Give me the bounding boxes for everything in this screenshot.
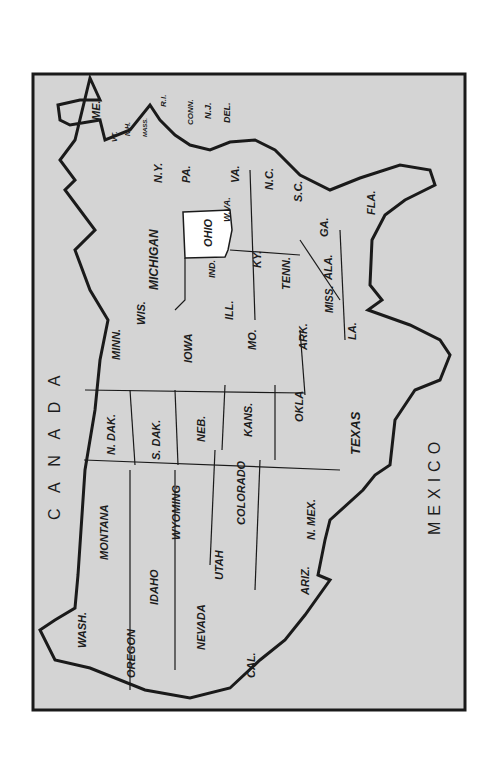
state-ky: KY. bbox=[251, 251, 263, 268]
state-miss: MISS. bbox=[324, 286, 335, 313]
state-me: ME. bbox=[90, 100, 102, 120]
state-iowa: IOWA bbox=[182, 334, 194, 363]
state-kans: KANS. bbox=[242, 403, 254, 437]
state-oregon: OREGON bbox=[125, 628, 137, 678]
state-nj: N.J. bbox=[203, 102, 213, 119]
state-utah: UTAH bbox=[213, 549, 225, 580]
state-pa: PA. bbox=[180, 165, 192, 183]
state-ny: N.Y. bbox=[152, 163, 164, 183]
region-canada: C A N A D A bbox=[46, 370, 63, 521]
state-wyoming: WYOMING bbox=[170, 485, 182, 540]
state-ala: ALA. bbox=[322, 254, 334, 281]
state-mass: MASS. bbox=[142, 118, 148, 137]
state-wash: WASH. bbox=[76, 612, 88, 648]
state-colorado: COLORADO bbox=[235, 460, 247, 525]
state-ark: ARK. bbox=[297, 323, 309, 351]
us-map: C A N A D A MEXICO ME. VT. N.H. MASS. R.… bbox=[0, 0, 495, 762]
state-nh: N.H. bbox=[124, 122, 131, 136]
state-sc: S.C. bbox=[292, 181, 304, 202]
state-vt: VT. bbox=[111, 132, 118, 142]
state-la: LA. bbox=[346, 322, 358, 340]
state-cal: CAL. bbox=[245, 652, 257, 678]
state-ga: GA. bbox=[318, 217, 330, 237]
state-mo: MO. bbox=[246, 329, 258, 350]
state-idaho: IDAHO bbox=[148, 569, 160, 605]
state-fla: FLA. bbox=[365, 191, 377, 215]
state-del: DEL. bbox=[222, 102, 232, 123]
state-michigan: MICHIGAN bbox=[147, 229, 161, 290]
state-montana: MONTANA bbox=[98, 505, 110, 560]
state-wis: WIS. bbox=[135, 301, 147, 325]
region-mexico: MEXICO bbox=[426, 436, 443, 535]
state-ndak: N. DAK. bbox=[105, 414, 117, 455]
state-texas: TEXAS bbox=[348, 411, 363, 455]
state-minn: MINN. bbox=[110, 329, 122, 360]
state-neb: NEB. bbox=[195, 416, 207, 442]
state-ill: ILL. bbox=[223, 300, 235, 320]
state-ariz: ARIZ. bbox=[299, 566, 311, 596]
state-ind: IND. bbox=[207, 260, 217, 278]
state-okla: OKLA bbox=[293, 391, 305, 422]
state-sdak: S. DAK. bbox=[150, 420, 162, 460]
state-nevada: NEVADA bbox=[195, 604, 207, 650]
state-nmex: N. MEX. bbox=[305, 499, 317, 540]
state-va: VA. bbox=[229, 165, 241, 183]
state-ohio: OHIO bbox=[202, 218, 214, 247]
state-conn: CONN. bbox=[186, 99, 195, 125]
state-ri: R.I. bbox=[159, 95, 168, 107]
state-nc: N.C. bbox=[263, 168, 275, 190]
state-tenn: TENN. bbox=[280, 257, 292, 290]
state-wva: W.VA. bbox=[222, 197, 232, 222]
